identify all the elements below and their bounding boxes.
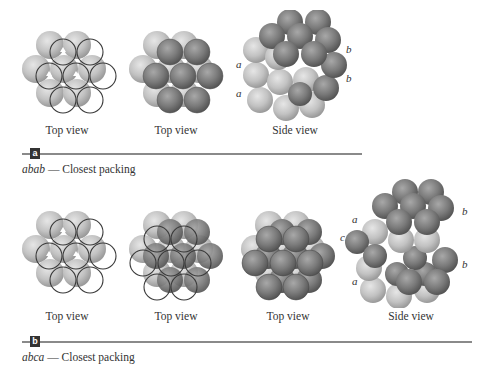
panel-title-abca: abca — Closest packing xyxy=(22,351,135,363)
figure-caption: Top view xyxy=(22,124,112,136)
abab-top-view-layer-a xyxy=(18,25,118,117)
panel-divider xyxy=(40,153,362,155)
layer-label-a: a xyxy=(236,58,242,70)
figure-caption: Side view xyxy=(250,124,340,136)
abca-top-view-layers-a xyxy=(18,205,118,297)
layer-label-b: b xyxy=(462,258,468,270)
layer-label-c: c xyxy=(340,231,345,243)
packing-sequence: abca xyxy=(22,351,44,363)
layer-label-b: b xyxy=(346,43,352,55)
layer-label-a: a xyxy=(236,87,242,99)
abab-side-view xyxy=(240,10,350,122)
abab-top-view-layers-ab xyxy=(125,25,225,117)
figure-caption: Top view xyxy=(243,310,333,322)
abca-side-view xyxy=(345,178,465,308)
figure-caption: Side view xyxy=(366,310,456,322)
panel-divider xyxy=(40,341,472,343)
panel-tick xyxy=(22,341,30,343)
panel-title-text: — Closest packing xyxy=(44,351,134,363)
figure-caption: Top view xyxy=(22,310,112,322)
layer-label-a: a xyxy=(352,275,358,287)
panel-title-text: — Closest packing xyxy=(45,163,135,175)
figure-caption: Top view xyxy=(131,310,221,322)
layer-label-b: b xyxy=(462,205,468,217)
layer-label-b: b xyxy=(346,72,352,84)
layer-label-a: a xyxy=(352,213,358,225)
abca-top-view-layers-ab xyxy=(125,205,235,305)
panel-title-abab: abab — Closest packing xyxy=(22,163,135,175)
packing-sequence: abab xyxy=(22,163,45,175)
panel-badge-a: a xyxy=(30,148,40,159)
panel-tick xyxy=(22,153,30,155)
figure-caption: Top view xyxy=(131,124,221,136)
panel-badge-b: b xyxy=(30,336,40,347)
abca-top-view-layers-abc xyxy=(237,205,347,305)
